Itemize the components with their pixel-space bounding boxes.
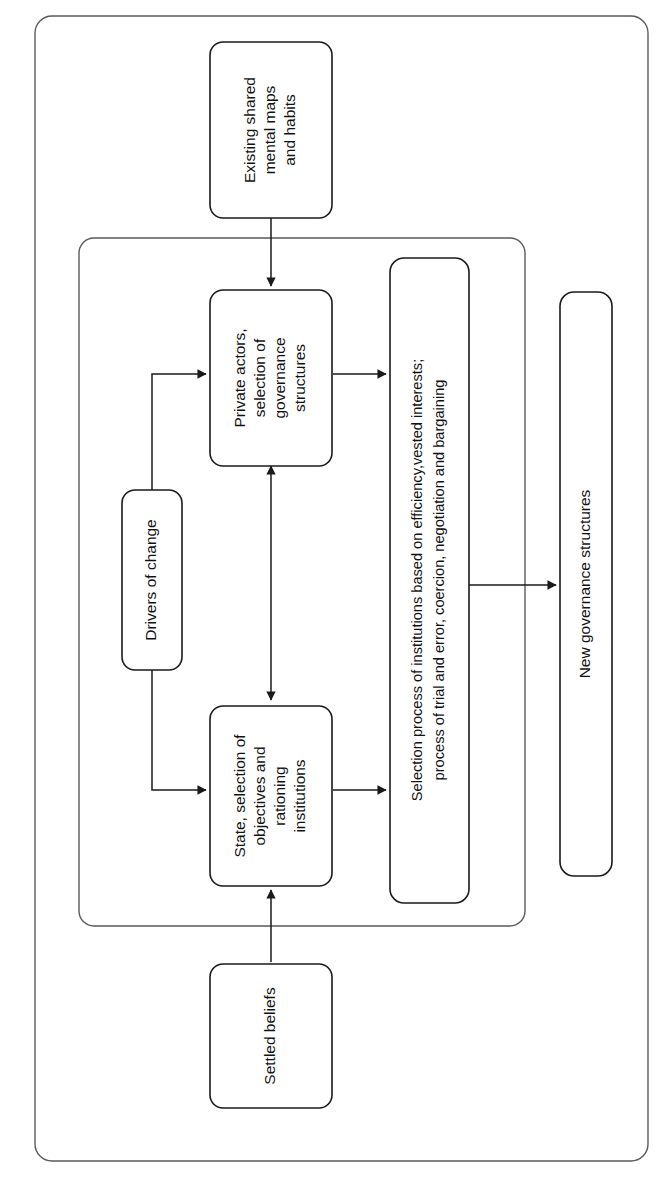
- flow-diagram: Existing shared mental maps and habits P…: [0, 0, 666, 1201]
- node-label-line: Existing shared: [241, 77, 258, 183]
- node-label-line: New governance structures: [576, 489, 593, 678]
- node-box: [390, 258, 469, 903]
- node-new-governance-structures[interactable]: New governance structures: [560, 292, 612, 876]
- diagram-canvas: Existing shared mental maps and habits P…: [0, 0, 666, 1201]
- node-label-line: governance: [271, 337, 288, 418]
- node-drivers-of-change[interactable]: Drivers of change: [122, 490, 182, 670]
- node-state-selection[interactable]: State, selection of objectives and ratio…: [210, 706, 332, 886]
- node-label-line: mental maps: [261, 85, 278, 174]
- node-label-line: objectives and: [251, 746, 268, 845]
- node-settled-beliefs[interactable]: Settled beliefs: [210, 964, 332, 1108]
- node-label-line: Drivers of change: [142, 519, 159, 640]
- node-label-line: selection of: [251, 338, 268, 417]
- node-label-line: institutions: [291, 759, 308, 832]
- node-label-line: Settled beliefs: [261, 987, 278, 1085]
- node-label-line: and habits: [281, 94, 298, 166]
- node-label-line: rationing: [271, 766, 288, 825]
- node-label-line: Selection process of institutions based …: [409, 359, 425, 801]
- node-label-line: process of trial and error, coercion, ne…: [431, 380, 447, 781]
- node-label-line: structures: [291, 344, 308, 412]
- node-existing-shared-mental-maps-and-habits[interactable]: Existing shared mental maps and habits: [210, 42, 332, 218]
- node-private-actors[interactable]: Private actors, selection of governance …: [210, 290, 332, 466]
- node-selection-process[interactable]: Selection process of institutions based …: [390, 258, 469, 903]
- node-label-line: Private actors,: [231, 328, 248, 427]
- node-label-line: State, selection of: [231, 734, 248, 858]
